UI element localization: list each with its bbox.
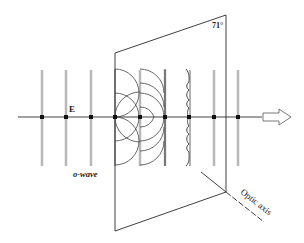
field-label: E <box>69 104 75 114</box>
right-arrow-icon <box>263 109 291 125</box>
angle-label: 71° <box>212 21 223 30</box>
wave-label: o-wave <box>73 169 98 179</box>
crystal-plate <box>115 15 226 231</box>
optic-axis-label: Optic axis <box>239 187 275 218</box>
o-wave-diagram: E o-wave 71° Optic axis <box>0 0 304 243</box>
